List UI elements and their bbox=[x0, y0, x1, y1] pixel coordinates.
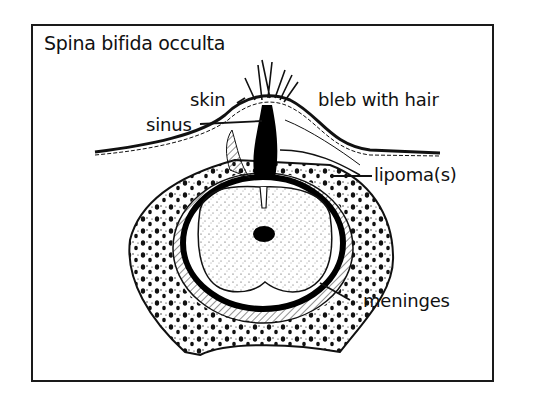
spine-cross-section-illustration bbox=[0, 0, 538, 400]
label-sinus: sinus bbox=[146, 114, 192, 135]
label-bleb-with-hair: bleb with hair bbox=[318, 89, 439, 110]
label-skin: skin bbox=[190, 89, 225, 110]
label-lipoma: lipoma(s) bbox=[374, 164, 457, 185]
label-meninges: meninges bbox=[363, 290, 450, 311]
spinal-cord bbox=[198, 187, 332, 292]
central-canal bbox=[253, 226, 275, 242]
sinus-leader bbox=[200, 121, 262, 124]
